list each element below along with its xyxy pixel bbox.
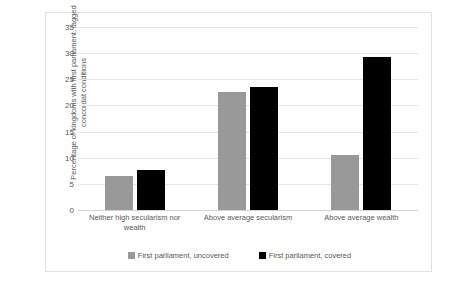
legend-swatch-icon — [259, 252, 266, 259]
y-axis-tick-label: 0 — [70, 206, 74, 215]
plot-area: 05101520253035 — [78, 27, 418, 210]
legend-label: First parliament, covered — [269, 251, 352, 260]
y-axis-tick-label: 25 — [65, 75, 74, 84]
x-axis-labels: Neither high secularism nor wealthAbove … — [78, 213, 418, 247]
chart-plot-frame: Percentage of kingdoms with first parlia… — [45, 12, 432, 272]
bars-layer — [78, 27, 418, 210]
legend-item[interactable]: First parliament, uncovered — [128, 251, 229, 260]
x-axis-category-label: Above average wealth — [305, 213, 418, 223]
y-axis-tick-label: 30 — [65, 49, 74, 58]
y-axis-tick-label: 5 — [70, 179, 74, 188]
y-axis-tick-label: 35 — [65, 23, 74, 32]
x-axis-category-label: Neither high secularism nor wealth — [78, 213, 191, 233]
chart-legend: First parliament, uncoveredFirst parliam… — [46, 251, 433, 260]
y-axis-tick-label: 20 — [65, 101, 74, 110]
legend-swatch-icon — [128, 252, 135, 259]
legend-label: First parliament, uncovered — [138, 251, 229, 260]
bar — [137, 170, 165, 210]
y-axis-tick-label: 10 — [65, 153, 74, 162]
legend-item[interactable]: First parliament, covered — [259, 251, 352, 260]
bar — [331, 155, 359, 210]
bar-chart: Percentage of kingdoms with first parlia… — [0, 0, 453, 289]
bar — [218, 92, 246, 210]
x-axis-category-label: Above average secularism — [191, 213, 304, 223]
bar — [250, 87, 278, 210]
gridline — [78, 210, 418, 211]
bar — [363, 57, 391, 210]
y-axis-tick-label: 15 — [65, 127, 74, 136]
bar — [105, 176, 133, 210]
